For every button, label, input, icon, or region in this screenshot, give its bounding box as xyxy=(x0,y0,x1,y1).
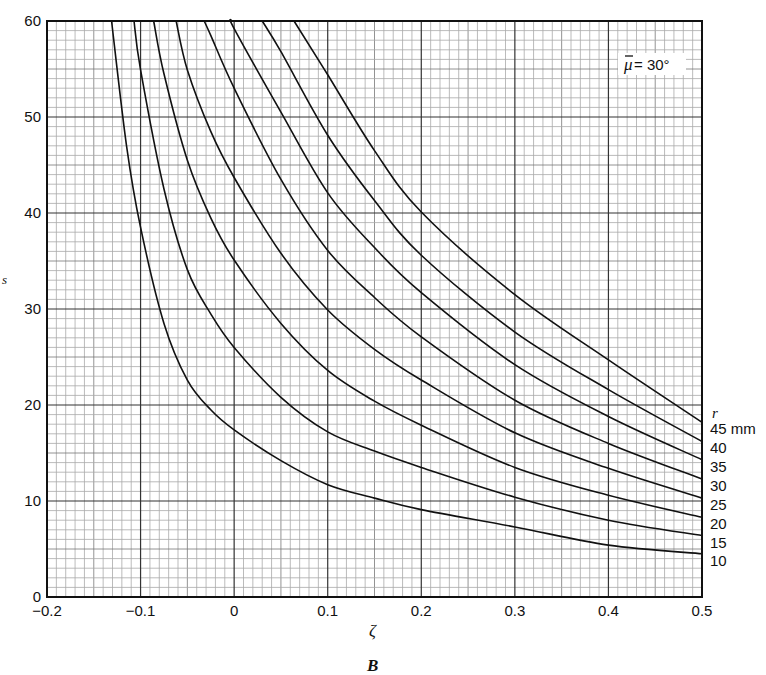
curve-r-20 xyxy=(154,21,702,517)
legend-label-r-25: 25 xyxy=(710,496,727,513)
x-tick-label: 0.2 xyxy=(411,602,432,619)
legend: 1015202530354045 mmr xyxy=(710,405,756,569)
x-tick-label: −0.1 xyxy=(126,602,156,619)
y-tick-label: 60 xyxy=(24,12,41,29)
x-tick-label: 0.5 xyxy=(692,602,713,619)
y-tick-label: 30 xyxy=(24,300,41,317)
x-tick-label: −0.2 xyxy=(32,602,62,619)
curve-r-10 xyxy=(112,21,702,554)
y-tick-label: 10 xyxy=(24,492,41,509)
x-tick-label: 0.3 xyxy=(504,602,525,619)
legend-title: r xyxy=(712,405,718,421)
curves xyxy=(112,20,702,554)
x-tick-labels: −0.2−0.100.10.20.30.40.5 xyxy=(32,602,712,619)
y-tick-label: 50 xyxy=(24,108,41,125)
legend-label-r-35: 35 xyxy=(710,458,727,475)
y-tick-labels: 0102030405060 xyxy=(24,12,41,605)
legend-label-r-40: 40 xyxy=(710,439,727,456)
legend-label-r-30: 30 xyxy=(710,477,727,494)
curve-r-45 xyxy=(294,21,702,422)
x-tick-label: 0.4 xyxy=(598,602,619,619)
annotation-box: μ = 30° xyxy=(618,53,686,75)
figure-caption: B xyxy=(366,656,378,675)
y-tick-label: 40 xyxy=(24,204,41,221)
x-axis-label: ζ xyxy=(369,621,377,640)
y-tick-label: 20 xyxy=(24,396,41,413)
annotation-text: = 30° xyxy=(634,56,670,73)
legend-label-r-20: 20 xyxy=(710,515,727,532)
x-tick-label: 0.1 xyxy=(317,602,338,619)
legend-label-r-15: 15 xyxy=(710,534,727,551)
y-axis-label: s xyxy=(2,272,7,287)
chart: 0102030405060 −0.2−0.100.10.20.30.40.5 1… xyxy=(0,0,766,675)
legend-label-r-45: 45 mm xyxy=(710,420,756,437)
annotation-symbol: μ xyxy=(623,55,633,74)
curve-r-35 xyxy=(230,20,702,460)
legend-label-r-10: 10 xyxy=(710,552,727,569)
curve-r-25 xyxy=(176,21,702,498)
x-tick-label: 0 xyxy=(230,602,238,619)
